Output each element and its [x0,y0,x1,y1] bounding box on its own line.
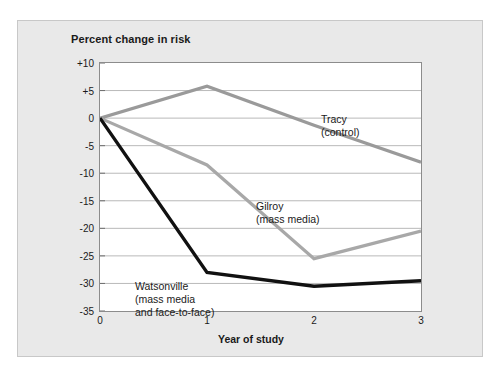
series-label-tracy-line1: Tracy [321,113,360,126]
figure-panel: Percent change in risk +10 +5 0 -5 -10 -… [17,20,483,357]
series-label-gilroy-line1: Gilroy [256,200,320,213]
y-tick-label: -30 [80,278,94,289]
series-label-watsonville-line1: Watsonville [135,280,214,293]
y-tick-label: +5 [83,85,94,96]
series-label-tracy-line2: (control) [321,126,360,139]
x-axis-label: Year of study [18,333,484,345]
series-label-watsonville: Watsonville (mass media and face-to-face… [135,280,214,319]
x-tick-label: 2 [311,315,317,326]
series-label-watsonville-line3: and face-to-face) [135,306,214,319]
y-tick-label: -5 [85,140,94,151]
x-tick-label: 3 [418,315,424,326]
y-tick-label: -20 [80,223,94,234]
series-label-gilroy: Gilroy (mass media) [256,200,320,226]
x-tick-label: 0 [97,315,103,326]
series-line [100,86,421,162]
y-tick-marks [100,63,105,311]
y-tick-label: +10 [77,58,94,69]
y-tick-label: 0 [88,113,94,124]
y-tick-label: -25 [80,250,94,261]
plot-area [99,62,422,312]
y-tick-label: -10 [80,168,94,179]
series-label-watsonville-line2: (mass media [135,293,214,306]
series-label-gilroy-line2: (mass media) [256,213,320,226]
y-tick-label: -15 [80,195,94,206]
y-axis-tick-labels: +10 +5 0 -5 -10 -15 -20 -25 -30 -35 [44,62,94,312]
chart-title: Percent change in risk [71,33,191,45]
chart-plot-svg [100,63,421,311]
series-label-tracy: Tracy (control) [321,113,360,139]
y-tick-label: -35 [80,306,94,317]
